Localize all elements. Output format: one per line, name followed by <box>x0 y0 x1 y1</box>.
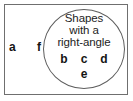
member-c: c <box>81 53 88 66</box>
set-label-line-2: with a <box>46 25 122 37</box>
member-row: b c d <box>50 53 118 66</box>
member-row: e <box>50 68 118 81</box>
member-a: a <box>9 41 16 54</box>
members-outside-circle: a f <box>9 41 41 54</box>
member-e: e <box>81 68 88 81</box>
member-b: b <box>60 53 67 66</box>
member-d: d <box>100 53 107 66</box>
set-label-line-3: right-angle <box>46 37 122 49</box>
venn-diagram: Shapes with a right-angle b c d e a f <box>0 0 133 101</box>
member-f: f <box>37 41 41 54</box>
members-inside-circle: b c d e <box>50 53 118 81</box>
set-label: Shapes with a right-angle <box>46 13 122 48</box>
